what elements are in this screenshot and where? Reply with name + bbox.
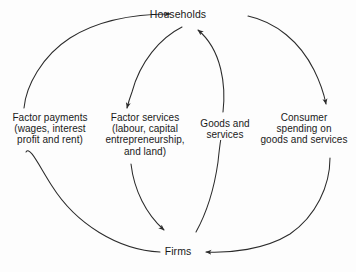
arrow-factor-payments-upper: [24, 14, 170, 108]
arrow-factor-services-lower: [131, 164, 164, 230]
arrow-consumer-spending-upper: [248, 16, 326, 104]
flow-label-factor-payments: Factor payments (wages, interest profit …: [2, 112, 98, 146]
arrow-goods-services-lower: [196, 138, 221, 232]
arrow-factor-services-upper: [127, 27, 182, 108]
flow-label-line: Factor payments: [2, 112, 98, 123]
node-firms: Firms: [0, 246, 356, 258]
flow-label-line: Consumer: [254, 112, 354, 123]
node-households: Households: [0, 9, 356, 21]
circular-flow-diagram: Households Firms Factor payments (wages,…: [0, 0, 356, 272]
arrow-factor-payments-lower: [26, 151, 160, 252]
flow-label-line: spending on: [254, 123, 354, 134]
flow-label-goods-services: Goods and services: [192, 118, 258, 140]
flow-label-line: Factor services: [98, 112, 192, 123]
flow-label-line: goods and services: [254, 134, 354, 145]
flow-label-line: profit and rent): [2, 134, 98, 145]
flow-label-factor-services: Factor services (labour, capital entrepr…: [98, 112, 192, 157]
arrow-consumer-spending-lower: [206, 158, 330, 252]
flow-label-line: (wages, interest: [2, 123, 98, 134]
flow-label-consumer-spending: Consumer spending on goods and services: [254, 112, 354, 146]
arrow-goods-services-upper: [198, 30, 224, 112]
flow-label-line: entrepreneurship,: [98, 134, 192, 145]
flow-label-line: Goods and: [192, 118, 258, 129]
flow-label-line: and land): [98, 146, 192, 157]
flow-label-line: (labour, capital: [98, 123, 192, 134]
flow-label-line: services: [192, 129, 258, 140]
